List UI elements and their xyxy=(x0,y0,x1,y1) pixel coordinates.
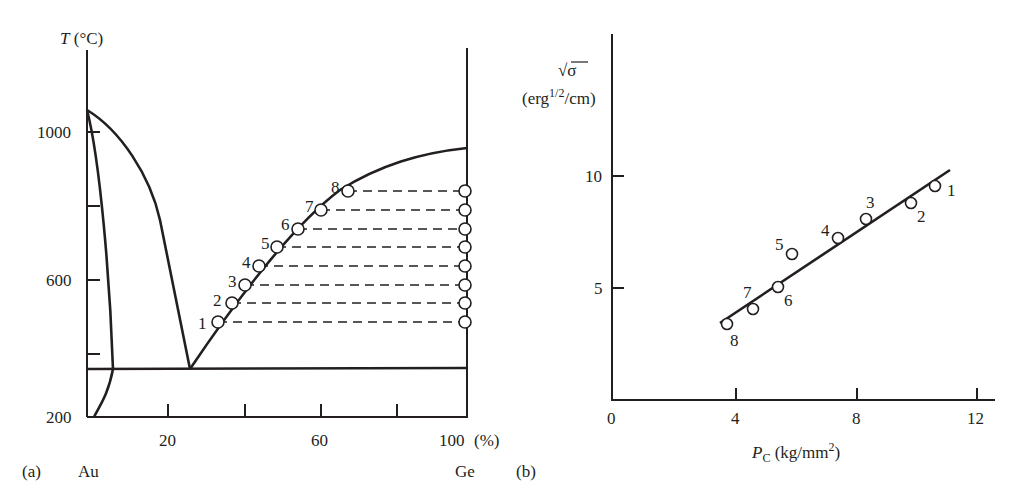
svg-text:8: 8 xyxy=(331,178,340,197)
panel-a-x-ticks xyxy=(168,404,397,417)
panel-a-phase-diagram: T (°C) 1000 600 200 20 60 100 (%) xyxy=(22,29,499,481)
svg-text:200: 200 xyxy=(46,408,72,427)
tie-lines xyxy=(218,191,464,322)
svg-text:7: 7 xyxy=(305,197,314,216)
svg-text:7: 7 xyxy=(743,283,752,302)
data-point-labels: 1 2 3 4 5 6 7 8 xyxy=(730,181,956,350)
component-ge-label: Ge xyxy=(455,462,475,481)
panel-a-y-axis-label: T (°C) xyxy=(60,29,103,48)
svg-text:20: 20 xyxy=(159,431,176,450)
panel-b-y-tick-labels: 10 5 xyxy=(585,167,603,298)
liquidus-ge-side xyxy=(190,148,467,369)
liquidus-points xyxy=(212,185,354,328)
data-points xyxy=(722,181,941,330)
svg-text:8: 8 xyxy=(852,409,861,428)
liquidus-au-side xyxy=(87,110,190,369)
svg-text:3: 3 xyxy=(228,272,237,291)
eutectic-line xyxy=(87,368,467,369)
svg-text:(%): (%) xyxy=(474,431,499,450)
liquidus-point-labels: 1 2 3 4 5 6 7 8 xyxy=(198,178,340,333)
svg-text:5: 5 xyxy=(594,279,603,298)
panel-a-label: (a) xyxy=(22,462,41,481)
panel-a-y-tick-labels: 1000 600 200 xyxy=(37,123,72,427)
svg-text:2: 2 xyxy=(917,207,926,226)
svg-text:5: 5 xyxy=(775,235,784,254)
svg-text:60: 60 xyxy=(311,431,328,450)
solidus-au-side xyxy=(87,110,113,417)
panel-b-y-axis-label-main: √σ xyxy=(558,61,577,80)
svg-text:4: 4 xyxy=(731,409,740,428)
svg-text:3: 3 xyxy=(866,193,875,212)
figure: T (°C) 1000 600 200 20 60 100 (%) xyxy=(0,0,1015,502)
svg-text:10: 10 xyxy=(585,167,602,186)
panel-a-x-tick-labels: 20 60 100 (%) xyxy=(159,431,499,450)
svg-text:6: 6 xyxy=(281,215,290,234)
svg-text:5: 5 xyxy=(261,234,270,253)
fit-line xyxy=(720,170,950,323)
svg-text:0: 0 xyxy=(607,409,616,428)
svg-text:600: 600 xyxy=(46,271,72,290)
panel-b-label: (b) xyxy=(516,462,536,481)
ge-axis-points xyxy=(459,185,471,328)
svg-text:1000: 1000 xyxy=(37,123,71,142)
panel-b-x-axis-label: PC (kg/mm2) xyxy=(751,440,840,465)
panel-b-y-axis-unit: (erg1/2/cm) xyxy=(522,86,596,108)
svg-text:1: 1 xyxy=(947,181,956,200)
panel-b-scatter: √σ (erg1/2/cm) 10 5 0 4 8 12 PC (kg/mm2)… xyxy=(516,34,995,481)
svg-text:1: 1 xyxy=(198,314,207,333)
svg-text:4: 4 xyxy=(821,221,830,240)
svg-text:2: 2 xyxy=(213,291,222,310)
component-au-label: Au xyxy=(78,462,99,481)
svg-text:8: 8 xyxy=(730,331,739,350)
panel-b-x-tick-labels: 0 4 8 12 xyxy=(607,409,984,428)
svg-text:6: 6 xyxy=(784,291,793,310)
svg-text:12: 12 xyxy=(967,409,984,428)
panel-b-x-ticks xyxy=(736,388,977,400)
svg-text:4: 4 xyxy=(242,253,251,272)
svg-text:100: 100 xyxy=(439,431,465,450)
panel-b-y-ticks xyxy=(612,176,624,288)
